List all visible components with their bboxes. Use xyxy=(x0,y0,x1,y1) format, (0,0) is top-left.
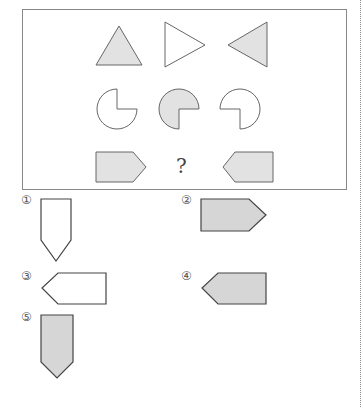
option-3-shape[interactable] xyxy=(42,273,106,304)
option-5-label[interactable]: ⑤ xyxy=(21,310,32,324)
triangle-right-outline-icon xyxy=(165,22,205,67)
circle-missing-bottom-left-icon xyxy=(220,89,260,129)
option-2-label[interactable]: ② xyxy=(181,193,192,207)
circle-missing-bottom-right-icon xyxy=(159,89,199,129)
circle-missing-top-right-icon xyxy=(97,89,137,129)
pentagon-arrow-right-filled-icon xyxy=(96,152,146,182)
option-3-label[interactable]: ③ xyxy=(21,269,32,283)
question-mark: ? xyxy=(176,154,187,178)
option-1-label[interactable]: ① xyxy=(21,193,32,207)
option-1-shape[interactable] xyxy=(41,199,71,261)
option-4-label[interactable]: ④ xyxy=(181,269,192,283)
triangle-up-filled-icon xyxy=(96,26,142,65)
triangle-left-filled-icon xyxy=(228,22,267,67)
option-2-shape[interactable] xyxy=(201,199,266,231)
option-5-shape[interactable] xyxy=(41,315,73,378)
pentagon-arrow-left-filled-icon xyxy=(223,152,273,182)
option-4-shape[interactable] xyxy=(202,273,266,304)
